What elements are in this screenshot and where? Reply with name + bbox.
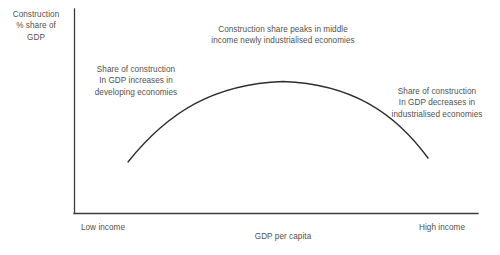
x-axis-title: GDP per capita bbox=[213, 231, 353, 242]
x-axis-tick-high-income: High income bbox=[397, 222, 487, 233]
annotation-developing-economies: Share of construction In GDP increases i… bbox=[76, 64, 196, 98]
annotation-industrialised-economies: Share of construction In GDP decreases i… bbox=[376, 86, 498, 120]
y-axis-title: Construction % share of GDP bbox=[0, 9, 72, 43]
annotation-peak-middle-income: Construction share peaks in middle incom… bbox=[193, 24, 373, 47]
x-axis-tick-low-income: Low income bbox=[58, 222, 148, 233]
construction-share-gdp-chart: Construction % share of GDP Share of con… bbox=[0, 0, 500, 255]
